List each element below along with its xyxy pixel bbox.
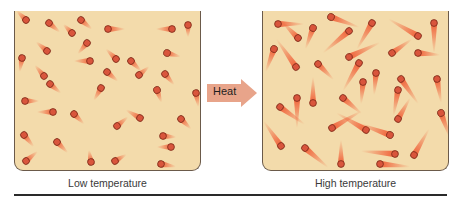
particle (275, 21, 304, 28)
particle (21, 149, 39, 166)
particle (327, 13, 361, 31)
particle (159, 132, 176, 140)
particle (69, 109, 86, 126)
particle (300, 143, 330, 170)
particle (310, 77, 317, 106)
particle (157, 160, 176, 170)
bottom-rule (14, 194, 447, 196)
particle (294, 95, 301, 128)
particle (275, 102, 306, 127)
particle (361, 148, 399, 158)
particle (76, 15, 94, 31)
particle (110, 152, 128, 166)
particle (45, 79, 63, 95)
particle (302, 24, 317, 50)
particle (274, 37, 301, 72)
particle (157, 144, 174, 151)
particle (376, 160, 410, 170)
particle (124, 107, 144, 123)
particle (156, 26, 175, 33)
particle (91, 83, 106, 101)
particle (153, 86, 165, 104)
particle (112, 114, 130, 130)
particle (34, 39, 52, 55)
particle (61, 22, 77, 38)
particle (74, 58, 93, 65)
particle (358, 78, 367, 104)
particle (176, 114, 193, 131)
particle (414, 49, 440, 58)
particle (75, 38, 91, 56)
particle (105, 26, 125, 33)
particle (321, 26, 354, 55)
particle (102, 67, 120, 83)
particle (431, 20, 438, 53)
particle (192, 89, 201, 107)
low-temperature-particles (15, 11, 201, 171)
particle (163, 49, 182, 60)
low-temperature-container (14, 11, 201, 171)
particle (371, 69, 380, 95)
particle (22, 98, 39, 105)
particle (433, 75, 444, 103)
particle (344, 40, 381, 62)
particle (185, 22, 192, 37)
particle (263, 45, 278, 73)
high-temperature-particles (263, 11, 449, 171)
particle (387, 16, 423, 41)
particle (327, 108, 363, 133)
low-temperature-caption: Low temperature (14, 177, 201, 189)
particle (52, 137, 70, 155)
particle (19, 130, 36, 148)
high-temperature-container (262, 11, 449, 171)
particle (437, 109, 449, 139)
particle (160, 69, 176, 87)
particle (313, 59, 336, 82)
particle (409, 127, 432, 159)
particle (86, 150, 95, 166)
particle (32, 63, 48, 81)
particle (16, 54, 26, 72)
particle (338, 140, 345, 167)
particle (387, 36, 413, 57)
particle (15, 11, 31, 25)
particle (44, 18, 62, 34)
particle (263, 119, 286, 150)
high-temperature-caption: High temperature (262, 177, 449, 189)
particle (104, 47, 121, 64)
particle (37, 109, 56, 116)
heat-label: Heat (213, 85, 247, 97)
